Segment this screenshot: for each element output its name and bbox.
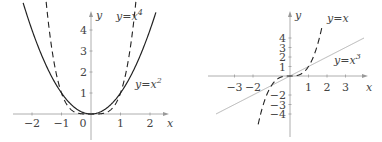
x-axis-arrow-icon (362, 74, 368, 78)
x-tick-label: 1 (305, 81, 312, 94)
label-x-fourth: y=x4 (115, 8, 143, 23)
chart-left: −2−1012 1234 x y y=x2 y=x4 (13, 2, 174, 140)
x-tick-label: 3 (342, 81, 349, 94)
y-axis-label: y (294, 9, 302, 22)
x-tick-label: 2 (147, 117, 154, 130)
y-tick-label: −4 (270, 108, 286, 121)
y-tick-label: 3 (80, 45, 87, 58)
y-tick-label: 4 (80, 24, 87, 37)
y-axis-arrow-icon (89, 11, 93, 17)
y-axis-arrow-icon (288, 11, 292, 17)
label-x-cubed: y=x3 (333, 52, 361, 67)
x-tick-label: 1 (117, 117, 124, 130)
x-tick-label: −2 (24, 117, 40, 130)
x-axis-label: x (167, 117, 174, 130)
x-tick-label: −3 (226, 81, 242, 94)
x-tick-label: −1 (53, 117, 69, 130)
x-axis-arrow-icon (163, 112, 169, 116)
x-axis-label: x (366, 81, 373, 94)
x-tick-label: 0 (80, 117, 87, 130)
x-tick-label: 2 (324, 81, 331, 94)
label-identity: y=x (326, 12, 349, 25)
y-tick-label: 1 (80, 87, 87, 100)
y-axis-label: y (95, 9, 103, 22)
figure: −2−1012 1234 x y y=x2 y=x4 −3−2123 4321−… (0, 0, 382, 142)
label-x-squared: y=x2 (134, 76, 162, 91)
y-tick-label: 1 (279, 61, 286, 74)
y-tick-label: 2 (80, 66, 87, 79)
chart-right: −3−2123 4321−2−3−4 x y y=x3 y=x (208, 9, 373, 137)
